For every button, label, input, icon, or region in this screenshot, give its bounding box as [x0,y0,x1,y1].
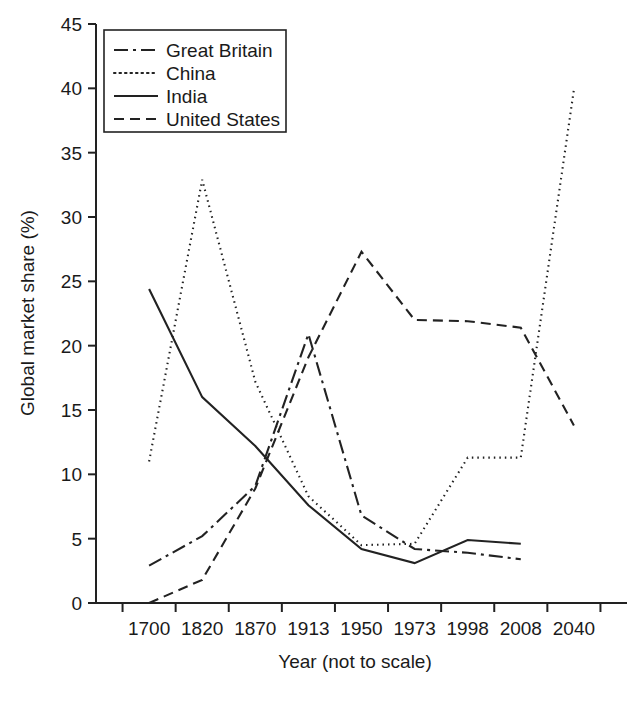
x-tick-label: 1973 [393,618,435,639]
chart-figure: Global market share (%) Year (not to sca… [0,0,637,704]
x-tick-label: 1913 [287,618,329,639]
y-tick-label: 5 [71,529,82,550]
x-tick-label: 2008 [500,618,542,639]
x-tick-label: 2040 [553,618,595,639]
x-tick-label: 1998 [447,618,489,639]
y-tick-label: 30 [61,207,82,228]
x-axis-title: Year (not to scale) [278,651,432,672]
series-line-china [149,90,574,545]
page-scan-artifact [0,674,637,704]
series-lines [149,90,574,603]
y-tick-label: 25 [61,271,82,292]
legend: Great BritainChinaIndiaUnited States [104,30,286,132]
y-tick-label: 20 [61,336,82,357]
x-tick-label: 1700 [128,618,170,639]
legend-label-great-britain: Great Britain [166,40,273,61]
y-tick-label: 35 [61,143,82,164]
y-tick-label: 45 [61,14,82,35]
x-tick-label: 1870 [234,618,276,639]
y-tick-label: 10 [61,464,82,485]
legend-label-india: India [166,86,208,107]
x-tick-label: 1950 [340,618,382,639]
y-tick-label: 0 [71,593,82,614]
y-axis-ticks: 051015202530354045 [61,14,96,614]
legend-label-united-states: United States [166,109,280,130]
series-line-great-britain [149,334,521,566]
x-tick-label: 1820 [181,618,223,639]
y-tick-label: 15 [61,400,82,421]
line-chart: Global market share (%) Year (not to sca… [0,0,637,704]
series-line-united-states [149,252,574,603]
y-axis-title: Global market share (%) [17,210,38,416]
y-tick-label: 40 [61,78,82,99]
x-axis-ticks: 170018201870191319501973199820082040 [123,603,601,639]
legend-label-china: China [166,63,216,84]
